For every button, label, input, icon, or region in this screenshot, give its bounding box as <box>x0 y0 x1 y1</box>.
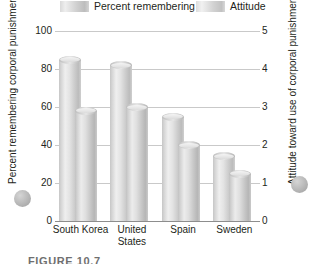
category-label: South Korea <box>52 224 110 236</box>
bar-cap <box>75 107 97 115</box>
left-tick-label: 20 <box>41 178 52 188</box>
left-axis-title: Percent remembering corporal punishment … <box>7 34 19 184</box>
x-axis-line <box>55 221 260 222</box>
left-tick-label: 60 <box>41 102 52 112</box>
legend-item-attitude: Attitude <box>196 1 266 12</box>
category-label: Sweden <box>205 224 263 236</box>
bar-attitude <box>178 145 200 221</box>
legend-swatch-icon <box>60 1 89 12</box>
right-tick-label: 5 <box>262 26 268 36</box>
figure-caption: FIGURE 10.7 <box>28 255 178 264</box>
right-tick-label: 3 <box>262 102 268 112</box>
bar-cap <box>110 61 132 69</box>
left-tick-label: 100 <box>35 26 52 36</box>
right-axis-ticks: 012345 <box>262 31 288 221</box>
bar-cap <box>126 103 148 111</box>
category-label: Spain <box>154 224 212 236</box>
bar-attitude <box>126 107 148 221</box>
bar-cap <box>178 141 200 149</box>
bar-attitude <box>75 111 97 221</box>
right-axis-title: Attitude toward use of corporal punishme… <box>287 60 299 185</box>
left-tick-label: 40 <box>41 140 52 150</box>
chart-legend: Percent remembering Attitude <box>0 0 320 16</box>
x-axis-categories: South KoreaUnited StatesSpainSweden <box>55 224 260 254</box>
gridline <box>55 69 260 70</box>
right-tick-label: 2 <box>262 140 268 150</box>
left-tick-label: 80 <box>41 64 52 74</box>
legend-label: Attitude <box>230 1 266 12</box>
category-label: United States <box>103 224 161 248</box>
right-tick-label: 1 <box>262 178 268 188</box>
right-axis-marker-icon <box>291 176 308 193</box>
legend-item-percent-remembering: Percent remembering <box>60 1 195 12</box>
legend-swatch-icon <box>196 1 225 12</box>
bar-cap <box>213 152 235 160</box>
bar-attitude <box>229 174 251 222</box>
legend-label: Percent remembering <box>94 1 195 12</box>
bar-cap <box>229 170 251 178</box>
bar-cap <box>59 56 81 64</box>
gridline <box>55 31 260 32</box>
right-tick-label: 4 <box>262 64 268 74</box>
left-axis-ticks: 020406080100 <box>26 31 52 221</box>
bar-chart: Percent remembering Attitude Percent rem… <box>0 0 320 264</box>
bar-cap <box>162 113 184 121</box>
plot-area <box>55 31 260 221</box>
